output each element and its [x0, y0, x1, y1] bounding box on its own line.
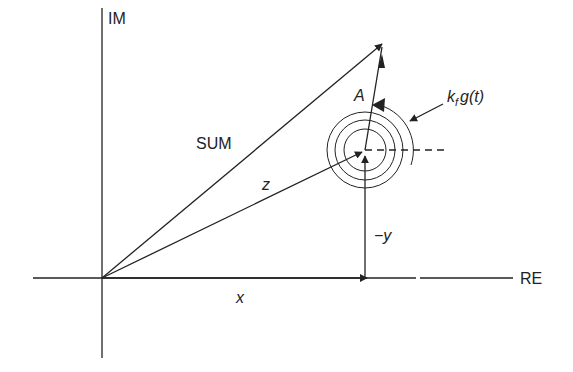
re-axis-label: RE	[520, 270, 542, 287]
kfg-label: kfg(t)	[447, 88, 484, 108]
z-label: z	[261, 176, 270, 193]
kfg-label-sub: f	[455, 96, 459, 108]
x-label: x	[235, 289, 245, 306]
rotation-arrowhead	[372, 98, 385, 112]
z-vector	[102, 152, 362, 278]
y-label: −y	[374, 227, 392, 244]
phasor-diagram: IM RE SUM z x −y A kfg(t)	[0, 0, 573, 372]
im-axis-label: IM	[108, 10, 126, 27]
a-label: A	[353, 87, 365, 104]
sum-vector	[102, 44, 382, 278]
sum-label: SUM	[196, 135, 232, 152]
kfg-label-rest: g(t)	[460, 88, 484, 105]
kfg-pointer	[410, 104, 443, 121]
